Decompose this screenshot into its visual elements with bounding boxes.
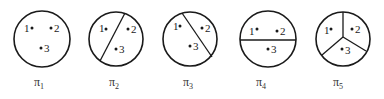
partition-circle (14, 11, 70, 67)
partition-1: 1 2 3 π1 (14, 11, 70, 91)
point-label-1: 1 (249, 25, 255, 37)
partition-4: 1 2 3 π4 (240, 11, 296, 91)
point-dot (50, 27, 53, 30)
point-dot (40, 47, 43, 50)
point-label-2: 2 (280, 25, 286, 37)
point-dot (31, 27, 34, 30)
partition-label: π2 (109, 75, 119, 91)
point-dot (105, 28, 108, 31)
point-label-2: 2 (131, 23, 137, 35)
partition-2: 1 2 3 π2 (89, 12, 143, 91)
point-label-3: 3 (345, 44, 351, 56)
point-dot (127, 28, 130, 31)
point-label-1: 1 (324, 24, 330, 36)
partition-label: π1 (34, 75, 44, 91)
point-dot (189, 45, 192, 48)
point-label-3: 3 (271, 43, 277, 55)
point-dot (179, 25, 182, 28)
point-dot (115, 48, 118, 51)
point-label-3: 3 (119, 43, 125, 55)
block-divider (322, 37, 343, 55)
point-dot (256, 28, 259, 31)
partition-3: 1 2 3 π3 (163, 12, 217, 91)
point-dot (330, 28, 333, 31)
partition-label: π3 (183, 75, 193, 91)
point-label-3: 3 (193, 40, 199, 52)
point-label-1: 1 (99, 22, 105, 34)
partition-circle (240, 11, 296, 67)
partition-circle (89, 12, 143, 66)
partition-5: 1 2 3 π5 (316, 12, 370, 91)
point-dot (276, 30, 279, 33)
point-label-2: 2 (205, 22, 211, 34)
partition-label: π4 (256, 75, 266, 91)
partition-diagram: 1 2 3 π1 1 2 3 π2 1 2 3 π3 1 2 (0, 0, 384, 99)
point-label-3: 3 (44, 42, 50, 54)
point-dot (341, 48, 344, 51)
point-label-2: 2 (355, 23, 361, 35)
point-dot (267, 48, 270, 51)
partition-label: π5 (333, 75, 343, 91)
point-label-1: 1 (24, 22, 30, 34)
point-dot (201, 27, 204, 30)
point-dot (351, 28, 354, 31)
partition-circle (163, 12, 217, 66)
point-label-1: 1 (173, 20, 179, 32)
point-label-2: 2 (54, 22, 60, 34)
